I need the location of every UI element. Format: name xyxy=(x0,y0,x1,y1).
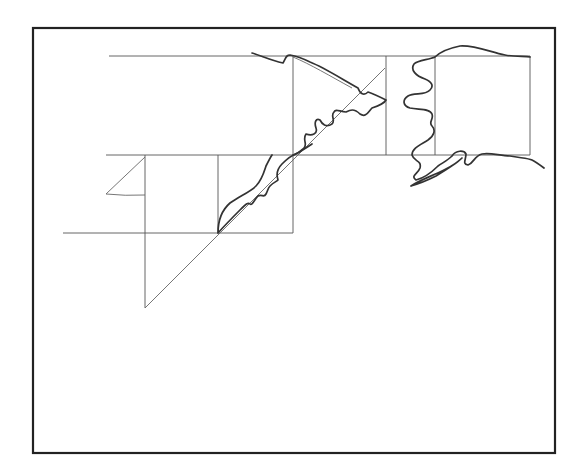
diagonal-construction-line xyxy=(145,68,385,308)
construction-grid xyxy=(63,56,530,308)
diagram-frame xyxy=(33,28,555,453)
alaska-transformed-outline-upper xyxy=(252,53,386,155)
left-triangle-shape xyxy=(106,157,145,195)
diagram-canvas xyxy=(0,0,577,465)
upper-inner-line xyxy=(293,57,352,88)
alaska-original-outline xyxy=(404,46,544,186)
